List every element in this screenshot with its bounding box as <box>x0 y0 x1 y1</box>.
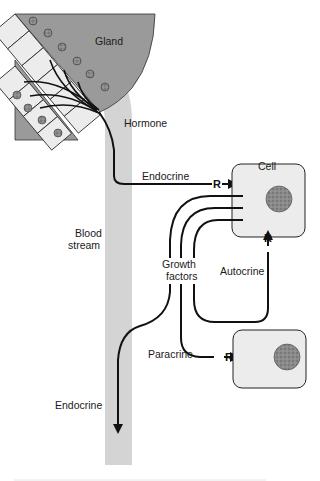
receptor-label-paracrine: R <box>225 351 233 363</box>
paracrine-label: Paracrine <box>148 348 193 360</box>
blood-stream-label-2: stream <box>68 239 100 251</box>
growth-factors-label-1: Growth <box>162 258 196 270</box>
cell-2-nucleus <box>274 344 300 370</box>
autocrine-label: Autocrine <box>220 265 265 277</box>
endocrine-bottom-label: Endocrine <box>55 399 102 411</box>
hormone-label: Hormone <box>124 117 167 129</box>
endocrine-top-label: Endocrine <box>142 170 189 182</box>
signaling-diagram: Gland Hormone Endocrine R Cell Blood str… <box>0 0 320 481</box>
cell-label: Cell <box>258 160 276 172</box>
blood-stream-label-1: Blood <box>75 227 102 239</box>
receptor-label-autocrine: R <box>264 232 272 244</box>
growth-factors-label-2: factors <box>166 270 198 282</box>
receptor-label-endocrine: R <box>213 178 221 190</box>
gland-label: Gland <box>95 35 123 47</box>
cell-1-nucleus <box>266 186 292 212</box>
autocrine-path <box>194 252 268 322</box>
